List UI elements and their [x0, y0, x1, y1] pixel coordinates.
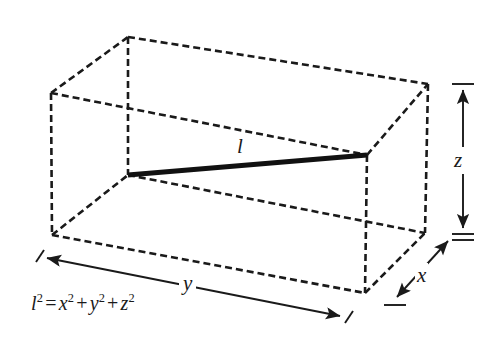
formula-plus-2: + [105, 292, 120, 314]
edge-front-right [365, 155, 367, 293]
label-diagonal-l: l [234, 136, 246, 157]
space-diagonal-line [128, 155, 367, 175]
label-width-y: y [179, 272, 196, 295]
edge-depth-top-left [51, 37, 128, 93]
edge-depth-bottom-left [52, 175, 128, 235]
formula-term3-exp: 2 [129, 291, 135, 305]
dimension-y-tick-left [36, 250, 44, 262]
formula-equals: = [43, 292, 58, 314]
label-depth-x: x [415, 263, 428, 288]
formula-pythagorean-3d: l2=x2+y2+z2 [31, 292, 135, 315]
figure-container: l z x y l2=x2+y2+z2 [0, 0, 488, 357]
edge-back-right [425, 84, 428, 233]
edge-front-top [51, 93, 367, 155]
edge-front-bottom [52, 235, 365, 293]
formula-term2-var: y [90, 292, 99, 314]
label-height-z: z [452, 147, 464, 174]
formula-term3-var: z [121, 292, 129, 314]
edge-back-bottom [128, 175, 425, 233]
dimension-y-tick-right [345, 311, 353, 323]
edge-depth-top-right [367, 84, 428, 155]
edge-front-left [51, 93, 52, 235]
formula-term1-var: x [59, 292, 68, 314]
formula-plus-1: + [74, 292, 89, 314]
edge-back-top [128, 37, 428, 84]
